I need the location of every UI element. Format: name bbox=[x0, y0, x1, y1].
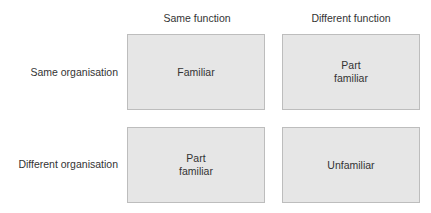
cell-part-familiar-different-function: Part familiar bbox=[282, 34, 420, 110]
row-header-same-organisation: Same organisation bbox=[0, 66, 118, 78]
cell-familiar: Familiar bbox=[127, 34, 265, 110]
row-header-different-organisation: Different organisation bbox=[0, 158, 118, 170]
cell-unfamiliar: Unfamiliar bbox=[282, 127, 420, 203]
column-header-different-function: Different function bbox=[281, 12, 421, 24]
cell-part-familiar-different-organisation: Part familiar bbox=[127, 127, 265, 203]
column-header-same-function: Same function bbox=[127, 12, 267, 24]
